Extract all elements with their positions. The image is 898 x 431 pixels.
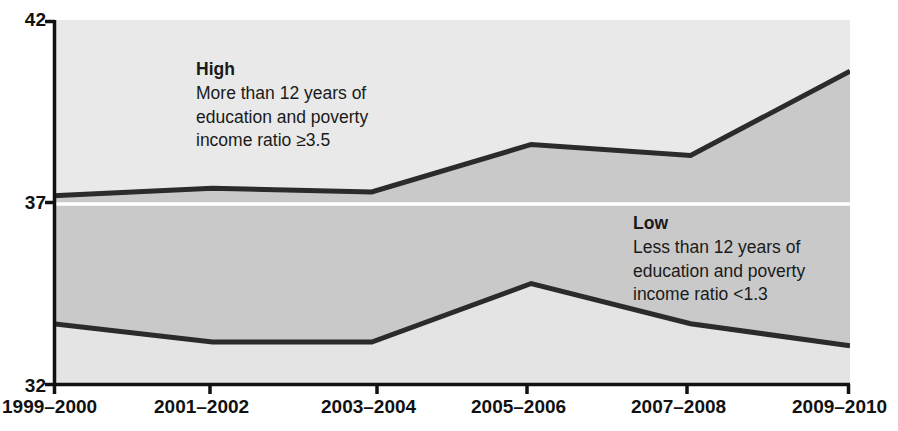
annotation-high-line-3: income ratio ≥3.5 <box>196 129 368 152</box>
y-axis-label-42: 42 <box>2 10 46 29</box>
annotation-high-title: High <box>196 58 368 81</box>
x-axis-label-2005-2006: 2005–2006 <box>471 397 566 416</box>
annotation-high-line-2: education and poverty <box>196 106 368 129</box>
annotation-high-series: High More than 12 years of education and… <box>196 58 368 152</box>
annotation-low-series: Low Less than 12 years of education and … <box>633 212 805 306</box>
x-axis-label-1999-2000: 1999–2000 <box>2 397 97 416</box>
annotation-low-line-3: income ratio <1.3 <box>633 283 805 306</box>
y-axis-label-37: 37 <box>2 193 46 212</box>
annotation-low-line-2: education and poverty <box>633 260 805 283</box>
x-axis-label-2003-2004: 2003–2004 <box>321 397 416 416</box>
x-axis-label-2001-2002: 2001–2002 <box>154 397 249 416</box>
x-axis-label-2007-2008: 2007–2008 <box>631 397 726 416</box>
x-axis-label-2009-2010: 2009–2010 <box>792 397 887 416</box>
chart-figure: 42 37 32 1999–2000 2001–2002 2003–2004 2… <box>0 0 898 431</box>
y-axis-label-32: 32 <box>2 376 46 395</box>
annotation-high-line-1: More than 12 years of <box>196 82 368 105</box>
annotation-low-line-1: Less than 12 years of <box>633 236 805 259</box>
annotation-low-title: Low <box>633 212 805 235</box>
